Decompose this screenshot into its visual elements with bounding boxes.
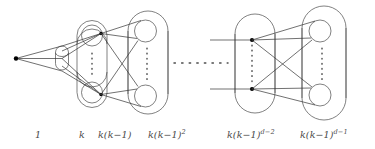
edge-l3-bottom-to-l4-top-a (101, 41, 138, 95)
level-4-node-bottom-circle (135, 85, 157, 107)
edges-root-to-level-2 (16, 46, 62, 71)
edge-l3-bottom-to-l4-bottom-b (101, 89, 137, 95)
level-3-node-top-circle (82, 25, 103, 46)
level-4-capsule-group (128, 11, 168, 114)
edge-l3-top-to-l4-top-b (101, 34, 137, 39)
edge-l3-bottom-to-l4-bottom-a (101, 95, 141, 107)
level-4-node-top-circle (135, 20, 157, 42)
edges-into-level-5 (210, 40, 252, 89)
edges-level-2-to-level-3 (62, 34, 101, 95)
tree-expansion-diagram (0, 0, 375, 149)
edge-l5-top-to-l6-top-a (252, 21, 315, 40)
level-5-capsule (235, 14, 275, 113)
edge-l3-top-to-l4-bottom-a (101, 34, 138, 87)
edges-level-5-to-level-6 (252, 21, 315, 105)
level-5-capsule-group (235, 14, 275, 113)
level-6-node-top-circle (309, 20, 331, 42)
level-6-node-bottom-circle (309, 84, 331, 106)
level-3-capsule-upper-outline (77, 21, 107, 44)
level-3-node-bottom-circle (82, 82, 103, 103)
edge-l2-mid-to-l3-bottom (62, 59, 101, 95)
edge-root-top (16, 46, 62, 59)
level-3-capsule-lower-outline (77, 72, 107, 108)
level-4-capsule (128, 11, 168, 114)
root-node-dot (14, 56, 18, 60)
edge-root-bottom (16, 59, 62, 72)
figure-container: 1 k k(k−1) k(k−1)2 k(k−1)d−2 k(k−1)d−1 (0, 0, 375, 149)
edge-l5-bottom-to-l6-bottom-a (252, 89, 315, 105)
